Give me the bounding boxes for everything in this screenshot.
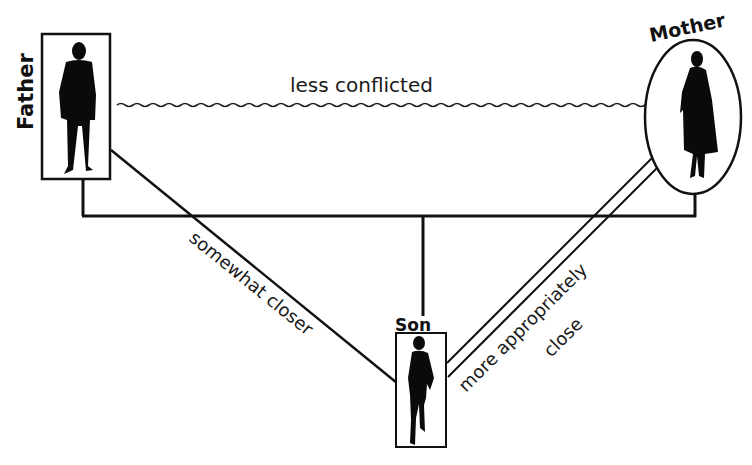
- son-label: Son: [395, 315, 431, 335]
- father-son-edge: [111, 150, 397, 383]
- son-node: Son: [395, 315, 446, 447]
- father-label: Father: [14, 52, 38, 130]
- less-conflicted-label: less conflicted: [290, 73, 433, 97]
- family-diagram: Father Mother Son less conflicted somewh…: [0, 0, 752, 465]
- somewhat-closer-label: somewhat closer: [185, 227, 317, 340]
- mother-node: Mother: [645, 8, 741, 194]
- father-node: Father: [14, 34, 110, 179]
- close-label: close: [539, 313, 587, 361]
- father-mother-edge: [117, 102, 671, 107]
